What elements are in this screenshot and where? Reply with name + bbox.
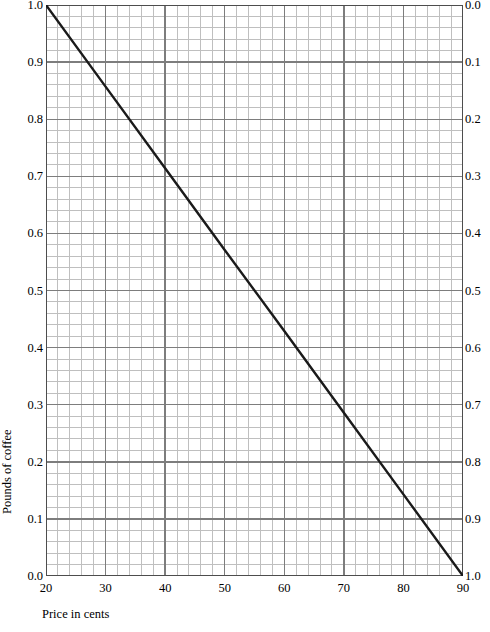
demand-line-series	[46, 5, 463, 576]
y-tick-label-right: 0.7	[465, 398, 481, 411]
y-tick-label-right: 0.2	[465, 113, 481, 126]
y-tick-label-right: 0.8	[465, 456, 481, 469]
y-tick-label-right: 0.6	[465, 341, 481, 354]
y-tick-label-left: 0.8	[0, 113, 43, 126]
y-tick-label-left: 0.1	[0, 513, 43, 526]
y-tick-label-left: 0.5	[0, 284, 43, 297]
demand-curve-chart: 0.00.10.20.30.40.50.60.70.80.91.0 1.00.9…	[0, 0, 490, 632]
y-tick-label-right: 0.9	[465, 513, 481, 526]
y-tick-label-left: 0.6	[0, 227, 43, 240]
x-tick-label: 40	[159, 582, 172, 595]
plot-area	[46, 5, 463, 576]
y-tick-label-right: 0.5	[465, 284, 481, 297]
y-axis-title-text: Pounds of coffee	[0, 500, 15, 514]
x-tick-label: 90	[457, 582, 470, 595]
y-tick-label-right: 0.1	[465, 56, 481, 69]
y-axis-title: Pounds of coffee	[0, 500, 15, 514]
x-tick-label: 60	[278, 582, 291, 595]
y-tick-label-left: 1.0	[0, 0, 43, 11]
x-tick-label: 80	[397, 582, 410, 595]
y-tick-label-left: 0.4	[0, 341, 43, 354]
x-tick-label: 50	[218, 582, 231, 595]
y-tick-label-right: 0.0	[465, 0, 481, 11]
y-tick-label-right: 0.3	[465, 170, 481, 183]
x-axis-title: Price in cents	[42, 607, 109, 622]
x-tick-label: 30	[99, 582, 112, 595]
y-tick-label-right: 0.4	[465, 227, 481, 240]
y-tick-label-left: 0.0	[0, 570, 43, 583]
x-tick-label: 20	[40, 582, 53, 595]
x-tick-label: 70	[338, 582, 351, 595]
y-tick-label-left: 0.9	[0, 56, 43, 69]
y-tick-label-left: 0.3	[0, 398, 43, 411]
y-tick-label-left: 0.7	[0, 170, 43, 183]
